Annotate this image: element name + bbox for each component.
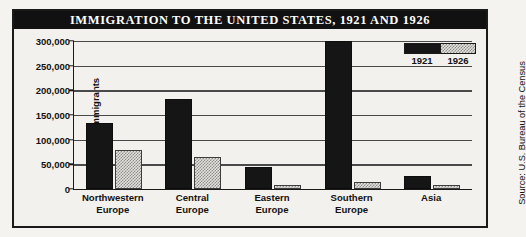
- bar-1926: [274, 185, 301, 189]
- x-axis-categories: NorthwesternEuropeCentralEuropeEasternEu…: [73, 192, 471, 215]
- bar-1921: [86, 123, 113, 189]
- y-axis-tick-label: 300,000: [36, 36, 70, 47]
- chart-legend: 19211926: [404, 43, 476, 66]
- source-note: Source: U.S. Bureau of the Census: [517, 43, 526, 223]
- x-axis-category-label: CentralEurope: [153, 192, 233, 215]
- bar-1921: [245, 167, 272, 189]
- y-axis-tick-label: 50,000: [41, 159, 70, 170]
- x-axis-category-label: SouthernEurope: [312, 192, 392, 215]
- bar-group: [233, 41, 313, 189]
- page-title: IMMIGRATION TO THE UNITED STATES, 1921 A…: [70, 13, 430, 28]
- bar-group: [74, 41, 154, 189]
- bar-group: [154, 41, 234, 189]
- legend-swatch-1921: [405, 44, 440, 53]
- legend-label-1926: 1926: [440, 55, 476, 66]
- y-axis-tick-label: 250,000: [36, 60, 70, 71]
- bar-1921: [404, 176, 431, 189]
- bar-1926: [354, 182, 381, 189]
- y-axis-tick-label: 0: [65, 184, 70, 195]
- bar-group: [313, 41, 393, 189]
- legend-labels: 19211926: [404, 55, 476, 66]
- y-axis-tick-label: 150,000: [36, 110, 70, 121]
- bar-1921: [325, 41, 352, 189]
- x-axis-category-label: Asia: [391, 192, 471, 215]
- bar-1926: [433, 185, 460, 189]
- x-axis-category-label: EasternEurope: [232, 192, 312, 215]
- chart-title-bar: IMMIGRATION TO THE UNITED STATES, 1921 A…: [14, 11, 486, 29]
- legend-label-1921: 1921: [404, 55, 440, 66]
- bar-1926: [194, 157, 221, 189]
- y-axis-tick-label: 100,000: [36, 134, 70, 145]
- x-axis-category-label: NorthwesternEurope: [73, 192, 153, 215]
- immigration-bar-chart-figure: IMMIGRATION TO THE UNITED STATES, 1921 A…: [0, 0, 526, 237]
- y-axis-tick-label: 200,000: [36, 85, 70, 96]
- bar-1926: [115, 150, 142, 189]
- bar-1921: [165, 99, 192, 189]
- legend-swatches: [404, 43, 476, 54]
- legend-swatch-1926: [440, 44, 476, 53]
